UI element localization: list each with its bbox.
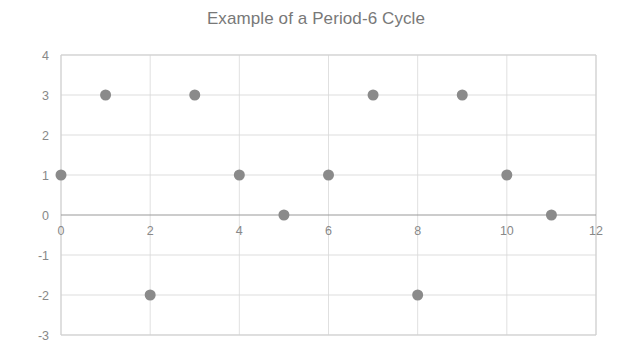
data-point <box>457 90 468 101</box>
data-point <box>234 170 245 181</box>
data-point <box>278 210 289 221</box>
x-tick-label: 0 <box>58 224 65 238</box>
x-axis-tick-labels: 024681012 <box>58 224 603 238</box>
y-tick-label: 2 <box>42 129 49 143</box>
y-tick-label: -1 <box>38 249 49 263</box>
y-tick-label: 1 <box>42 169 49 183</box>
data-point <box>145 290 156 301</box>
y-tick-label: 4 <box>42 49 49 63</box>
data-point <box>546 210 557 221</box>
data-point <box>412 290 423 301</box>
data-point <box>56 170 67 181</box>
y-tick-label: 3 <box>42 89 49 103</box>
vertical-gridlines <box>61 55 596 335</box>
data-point <box>100 90 111 101</box>
data-point <box>368 90 379 101</box>
x-tick-label: 4 <box>236 224 243 238</box>
y-tick-label: 0 <box>42 209 49 223</box>
y-tick-label: -2 <box>38 289 49 303</box>
data-point <box>501 170 512 181</box>
data-point <box>189 90 200 101</box>
x-tick-label: 12 <box>589 224 603 238</box>
y-axis-tick-labels: 43210-1-2-3 <box>38 49 49 343</box>
x-tick-label: 2 <box>147 224 154 238</box>
x-tick-label: 6 <box>325 224 332 238</box>
scatter-plot: 43210-1-2-3 024681012 <box>0 0 632 363</box>
x-tick-label: 10 <box>500 224 514 238</box>
x-tick-label: 8 <box>414 224 421 238</box>
data-point-series <box>56 90 557 301</box>
y-tick-label: -3 <box>38 329 49 343</box>
chart-figure: Example of a Period-6 Cycle 43210-1-2-3 … <box>0 0 632 363</box>
data-point <box>323 170 334 181</box>
